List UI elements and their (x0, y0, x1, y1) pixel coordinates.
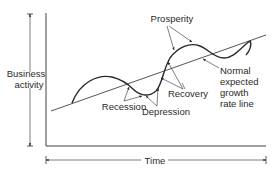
label-recession: Recession (102, 101, 146, 112)
prosperity-arrow-2 (169, 26, 192, 42)
y-axis-label-line1: Business (7, 68, 46, 79)
label-trend-line4: rate line (220, 98, 254, 109)
depression-arrow-2 (146, 96, 157, 106)
label-trend-line3: growth (220, 87, 249, 98)
recession-arrow-1 (124, 87, 129, 101)
label-trend-line1: Normal (220, 65, 251, 76)
label-depression: Depression (142, 106, 190, 117)
business-cycle-diagram: Business activity Time Prosperity Recove… (0, 0, 280, 171)
x-axis-label: Time (145, 155, 166, 166)
y-axis-label-line2: activity (14, 79, 43, 90)
prosperity-arrow-1 (167, 26, 174, 50)
label-recovery: Recovery (168, 88, 208, 99)
label-trend-line2: expected (220, 76, 259, 87)
trend-line-arrow (203, 59, 219, 68)
label-prosperity: Prosperity (151, 13, 194, 24)
